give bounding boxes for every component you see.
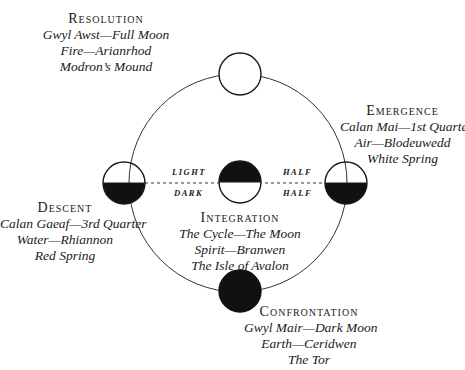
node-title: Emergence xyxy=(340,103,465,119)
third-quarter-moon-icon xyxy=(103,162,145,204)
node-line: Spirit—Branwen xyxy=(170,242,310,258)
node-confrontation: Confrontation Gwyl Mair—Dark Moon Earth—… xyxy=(244,304,374,368)
node-descent: Descent Calan Gaeaf—3rd Quarter Water—Rh… xyxy=(0,200,130,264)
label-half-bottom: Half xyxy=(283,188,312,198)
node-line: Modron’s Mound xyxy=(36,59,176,75)
node-line: The Cycle—The Moon xyxy=(170,226,310,242)
node-title: Confrontation xyxy=(244,304,374,320)
node-title: Integration xyxy=(170,210,310,226)
node-line: The Tor xyxy=(244,352,374,368)
node-resolution: Resolution Gwyl Awst—Full Moon Fire—Aria… xyxy=(36,11,176,75)
full-moon-icon xyxy=(219,53,261,95)
node-integration: Integration The Cycle—The Moon Spirit—Br… xyxy=(170,210,310,274)
node-line: Gwyl Mair—Dark Moon xyxy=(244,320,374,336)
node-line: Air—Blodeuwedd xyxy=(340,135,465,151)
label-light: Light xyxy=(172,167,206,177)
node-line: White Spring xyxy=(340,151,465,167)
node-line: The Isle of Avalon xyxy=(170,258,310,274)
node-line: Earth—Ceridwen xyxy=(244,336,374,352)
integration-moon-icon xyxy=(219,161,261,203)
node-title: Resolution xyxy=(36,11,176,27)
node-line: Calan Gaeaf—3rd Quarter xyxy=(0,216,130,232)
node-line: Red Spring xyxy=(0,248,130,264)
node-line: Fire—Arianrhod xyxy=(36,43,176,59)
label-half-top: Half xyxy=(283,167,312,177)
node-emergence: Emergence Calan Mai—1st Quarter Air—Blod… xyxy=(340,103,465,167)
node-line: Gwyl Awst—Full Moon xyxy=(36,27,176,43)
node-line: Water—Rhiannon xyxy=(0,232,130,248)
node-line: Calan Mai—1st Quarter xyxy=(340,119,465,135)
label-dark: Dark xyxy=(174,188,203,198)
node-title: Descent xyxy=(0,200,130,216)
